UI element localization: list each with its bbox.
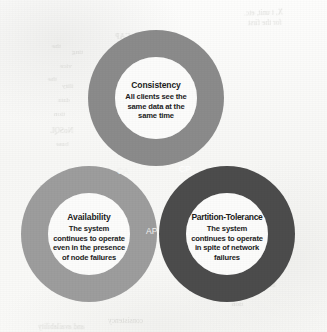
bleed-through-text: tion <box>54 110 65 118</box>
bleed-through-text: consistency <box>108 316 143 325</box>
circle-partition-tolerance-inner <box>186 193 268 275</box>
bleed-through-text: the <box>52 42 61 50</box>
circle-availability[interactable] <box>21 166 157 302</box>
bleed-through-text: and availability <box>38 322 85 331</box>
bleed-through-text: the <box>48 75 57 83</box>
circle-consistency[interactable] <box>88 30 224 166</box>
bleed-through-text: base <box>56 140 69 148</box>
bleed-through-text: vice <box>60 62 72 70</box>
bleed-through-text: for the first <box>248 18 282 28</box>
intersection-label-cp: CP <box>179 164 191 174</box>
circle-partition-tolerance[interactable] <box>159 166 295 302</box>
circle-availability-inner <box>48 193 130 275</box>
bleed-through-text: data <box>58 96 70 104</box>
cap-theorem-diagram: X, t unit, etc.for the firstCAPthetingvi… <box>0 0 327 332</box>
circle-consistency-inner <box>115 57 197 139</box>
bleed-through-text: NoSQL <box>50 126 73 135</box>
bleed-through-text: ting <box>72 48 83 56</box>
bleed-through-text: ility <box>62 82 73 90</box>
bleed-through-text: X, t unit, etc. <box>244 7 283 17</box>
